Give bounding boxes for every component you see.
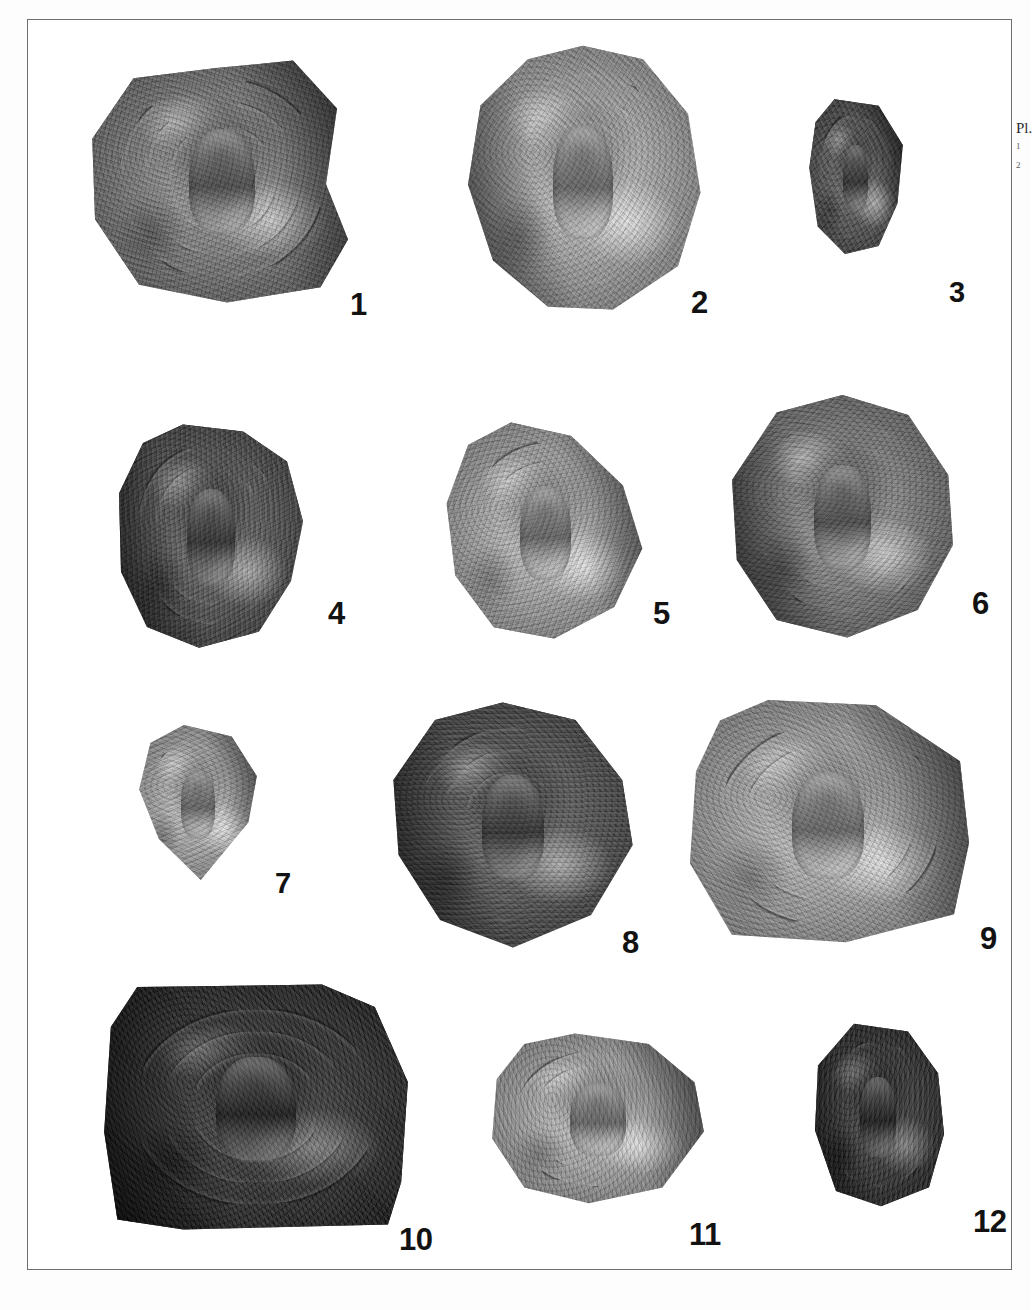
- specimen-edge-shadow: [458, 43, 708, 315]
- specimen-edge-shadow: [128, 720, 268, 885]
- specimen-figure: [438, 418, 653, 643]
- specimen-edge-shadow: [803, 1020, 953, 1210]
- specimen-figure: [111, 420, 311, 650]
- specimen-figure: [803, 1020, 953, 1210]
- specimen-figure: [458, 43, 708, 315]
- plate-caption: Pl. 1 2: [1016, 120, 1036, 175]
- specimen-edge-shadow: [84, 53, 359, 305]
- plate-caption-title: Pl.: [1016, 120, 1036, 137]
- specimen-number-1: 1: [350, 289, 367, 320]
- specimen-edge-shadow: [91, 982, 421, 1232]
- specimen-number-5: 5: [653, 598, 670, 629]
- specimen-edge-shadow: [111, 420, 311, 650]
- specimen-figure: [483, 1030, 713, 1205]
- specimen-number-10: 10: [399, 1224, 432, 1255]
- specimen-number-4: 4: [328, 598, 345, 629]
- plate-caption-line: 2: [1016, 156, 1036, 175]
- specimen-figure: [803, 96, 908, 259]
- specimen-figure: [91, 982, 421, 1232]
- specimen-edge-shadow: [383, 700, 643, 950]
- specimen-edge-shadow: [678, 695, 978, 950]
- plate-frame: 123456789101112: [27, 19, 1012, 1270]
- specimen-number-9: 9: [980, 923, 997, 954]
- specimen-number-3: 3: [949, 278, 965, 307]
- specimen-number-7: 7: [275, 869, 291, 898]
- specimen-edge-shadow: [438, 418, 653, 643]
- specimen-number-6: 6: [972, 588, 989, 619]
- specimen-number-11: 11: [689, 1219, 721, 1250]
- specimen-figure: [678, 695, 978, 950]
- plate-caption-line: 1: [1016, 137, 1036, 156]
- specimen-edge-shadow: [725, 390, 960, 640]
- specimen-figure: [128, 720, 268, 885]
- specimen-number-12: 12: [973, 1206, 1006, 1237]
- specimen-number-8: 8: [622, 927, 639, 958]
- specimen-figure: [383, 700, 643, 950]
- specimen-figure: [725, 390, 960, 640]
- specimen-edge-shadow: [483, 1030, 713, 1205]
- specimen-edge-shadow: [803, 96, 908, 259]
- specimen-number-2: 2: [691, 287, 708, 318]
- specimen-figure: [84, 53, 359, 305]
